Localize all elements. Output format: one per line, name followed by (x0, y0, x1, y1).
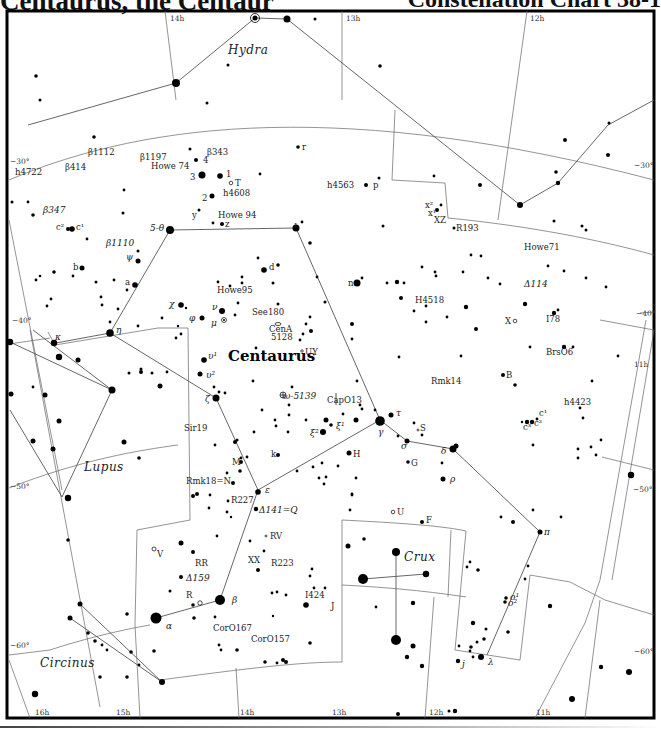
ra-label: 16h (35, 708, 50, 717)
star-label: Rmk18=N (186, 476, 232, 486)
star-label: XZ (434, 215, 446, 225)
dec-label: −60° (10, 641, 30, 650)
dec-label: −40° (12, 316, 32, 325)
star-label: p (373, 180, 379, 190)
footer-rule (0, 726, 661, 728)
star-label: B (506, 370, 512, 380)
star-label: G (411, 458, 418, 468)
ra-label: 14h (240, 708, 255, 717)
star-label: XX (248, 555, 261, 565)
ra-label: 13h (346, 14, 361, 23)
star-label: k (271, 449, 277, 459)
star-label: V (156, 549, 164, 559)
star-label: 4 (203, 155, 208, 165)
star-label: ω-5139 (283, 391, 317, 401)
star-label: Howe 94 (218, 210, 256, 220)
ra-label: 12h (530, 14, 545, 23)
star-label: λ (487, 657, 494, 667)
dec-label: −60° (634, 647, 654, 656)
star-label: β414 (65, 162, 86, 172)
star-label: UY (305, 347, 318, 357)
dec-label: −50° (633, 485, 653, 494)
variable-star-s-icon (417, 429, 419, 431)
star-label: CorO167 (213, 623, 252, 633)
star-label: Rmk14 (431, 376, 461, 386)
star-label: ι (294, 220, 298, 230)
constellation-label: Circinus (40, 656, 95, 670)
star-label: φ (189, 313, 196, 323)
constellation-label: Lupus (83, 460, 124, 474)
constellation-label: Hydra (227, 43, 268, 57)
star-label: c³ (523, 422, 531, 432)
star-label: c¹ (539, 408, 547, 418)
main-constellation-label: Centaurus (228, 347, 315, 365)
star-label: d (269, 262, 275, 272)
ra-label: 13h (332, 708, 347, 717)
star-label: κ (54, 332, 61, 342)
ra-label: 12h (429, 708, 444, 717)
star-label: CorO157 (251, 634, 290, 644)
ra-label: 15h (116, 708, 131, 717)
coordinate-labels: 14h13h12h11h16h15h14h13h12h11h−30°−30°−4… (10, 14, 656, 717)
star-label: H (353, 449, 360, 459)
ra-label: 11h (536, 708, 551, 717)
star-label: n (348, 278, 354, 288)
star-label: ζ (205, 394, 211, 404)
star-label: π (543, 527, 551, 537)
star-label: δ (441, 446, 446, 456)
variable-star-rv-icon (265, 535, 267, 537)
star-label: ψ (126, 252, 134, 262)
star-label: β1112 (88, 147, 115, 157)
constellation-label: Crux (404, 550, 435, 564)
star-label: ν (212, 302, 218, 312)
star-label: σ (401, 441, 408, 451)
star-label: Howe 74 (151, 161, 189, 171)
star-label: J (330, 601, 335, 611)
star-label: 1 (226, 169, 231, 179)
ra-label: 11h (634, 360, 649, 369)
star-label: 5128 (271, 332, 293, 342)
variable-star-x-icon (513, 319, 517, 323)
star-label: β347 (42, 205, 66, 215)
star-label: h4563 (327, 180, 354, 190)
star-label: h4423 (564, 397, 591, 407)
star-label: CapO13 (327, 395, 362, 405)
star-label: Howe71 (524, 242, 560, 252)
star-label: I424 (305, 590, 325, 600)
star-label: b (73, 262, 79, 272)
star-label: υ¹ (208, 351, 217, 361)
star-label: r (302, 142, 307, 152)
star-label: α (166, 621, 172, 631)
star-label: Δ141=Q (258, 505, 298, 515)
star-label: β (231, 595, 237, 605)
star-label: H4518 (415, 295, 444, 305)
star-label: o² (508, 598, 517, 608)
star-label: ε (265, 485, 270, 495)
star-label: j (460, 659, 465, 669)
star-label: F (426, 515, 432, 525)
star-label: ρ (449, 474, 456, 484)
dec-label: −50° (10, 482, 30, 491)
star-label: z (225, 219, 230, 229)
star-label: 5-θ (150, 223, 165, 233)
star-chart: 14h13h12h11h16h15h14h13h12h11h−30°−30°−4… (0, 0, 661, 731)
star-label: μ (211, 318, 217, 328)
variable-star-u-icon (391, 510, 395, 514)
star-label: c² (534, 418, 542, 428)
star-label: ξ² (310, 428, 319, 438)
dec-label: −40° (636, 309, 656, 318)
star-label: M (232, 457, 241, 467)
dec-label: −30° (634, 161, 654, 170)
star-label: R193 (456, 223, 479, 233)
star-label: R223 (271, 558, 294, 568)
star-label: RR (195, 558, 208, 568)
star-label: h4608 (223, 188, 250, 198)
ra-label: 14h (170, 14, 185, 23)
star-label: c¹ (76, 222, 84, 232)
star-label: R (186, 590, 193, 600)
star-label: Δ159 (185, 573, 210, 583)
star-label: ξ¹ (336, 421, 345, 431)
star-label: I78 (546, 314, 560, 324)
star-label: RV (270, 531, 283, 541)
star-label: BrsO6 (546, 347, 573, 357)
